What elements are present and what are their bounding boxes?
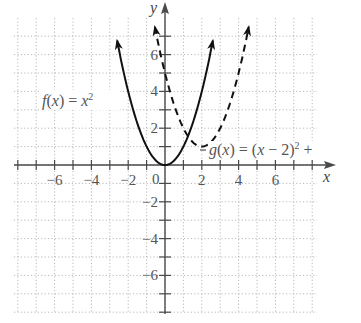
y-tick-label: −2: [142, 194, 158, 210]
x-tick-label: 2: [198, 172, 206, 188]
x-axis-label: x: [322, 168, 330, 185]
x-tick-label: 4: [235, 172, 243, 188]
y-tick-label: −6: [142, 267, 158, 283]
y-axis-label: y: [148, 0, 158, 17]
y-tick-label: 2: [151, 120, 159, 136]
x-tick-label: −6: [47, 172, 63, 188]
x-tick-label: −2: [120, 172, 136, 188]
x-tick-label: −4: [83, 172, 99, 188]
y-tick-label: −4: [142, 231, 158, 247]
function-graph: −6−4−2246642−2−4−6 x y 0 f(x) = x2 g(x) …: [0, 0, 361, 323]
y-tick-label: 6: [151, 47, 159, 63]
curve-g-left-arrow-icon: [153, 25, 161, 37]
origin-label: 0: [152, 171, 160, 187]
f-function-label: f(x) = x2: [42, 91, 93, 110]
x-tick-label: 6: [272, 172, 280, 188]
y-tick-label: 4: [151, 83, 159, 99]
